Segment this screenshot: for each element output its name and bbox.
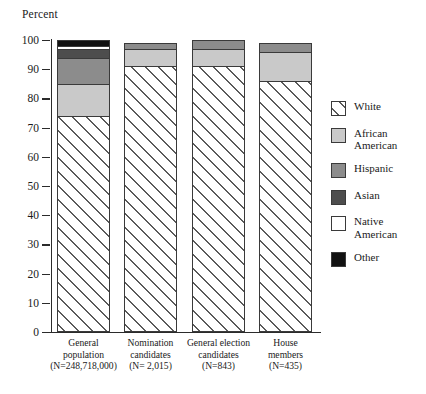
bar-segment-hispanic[interactable] (57, 58, 110, 84)
legend-item-asian[interactable]: Asian (331, 189, 426, 205)
bar-segment-africanamerican[interactable] (124, 49, 177, 67)
y-axis-tick-label: 80 (28, 92, 40, 104)
y-axis-tick (42, 128, 50, 129)
legend-swatch-other-icon (331, 252, 346, 267)
y-axis-tick (42, 332, 50, 333)
y-axis-tick (42, 274, 50, 275)
bar-segment-africanamerican[interactable] (57, 84, 110, 116)
bar-house-members[interactable] (259, 43, 312, 332)
x-axis-line (42, 332, 321, 333)
bar-general-population[interactable] (57, 40, 110, 332)
legend-label: African American (354, 127, 397, 152)
y-axis-tick-label: 70 (28, 122, 40, 134)
x-axis-label: Housemembers(N=435) (226, 337, 346, 372)
bar-segment-nativeamerican[interactable] (57, 46, 110, 49)
y-axis-tick-label: 90 (28, 63, 40, 75)
y-axis-tick-label: 40 (28, 209, 40, 221)
bar-segment-hispanic[interactable] (192, 40, 245, 49)
y-axis-tick (42, 215, 50, 216)
legend-swatch-nativeamerican-icon (331, 216, 346, 231)
legend-swatch-hispanic-icon (331, 163, 346, 178)
legend-swatch-white-icon (331, 101, 346, 116)
bar-segment-hispanic[interactable] (124, 43, 177, 49)
y-axis-tick (42, 40, 50, 41)
legend-label: Asian (354, 189, 380, 202)
y-axis-tick-label: 60 (28, 151, 40, 163)
y-axis-tick (42, 186, 50, 187)
bar-nomination-candidates[interactable] (124, 43, 177, 332)
y-axis-tick (42, 98, 50, 99)
chart-legend: WhiteAfrican AmericanHispanicAsianNative… (331, 100, 426, 277)
bar-segment-white[interactable] (192, 66, 245, 332)
bar-segment-other[interactable] (57, 40, 110, 46)
y-axis-tick-label: 100 (22, 34, 39, 46)
bar-segment-africanamerican[interactable] (192, 49, 245, 67)
y-axis-tick-label: 50 (28, 180, 40, 192)
x-axis-label-line: (N=435) (226, 360, 346, 372)
legend-label: Native American (354, 215, 397, 240)
bar-segment-hispanic[interactable] (259, 43, 312, 52)
y-axis-title: Percent (22, 8, 58, 20)
bar-segment-asian[interactable] (57, 49, 110, 58)
legend-item-white[interactable]: White (331, 100, 426, 116)
plot-area: 0102030405060708090100 (51, 40, 320, 332)
stacked-bar-chart: Percent 0102030405060708090100 WhiteAfri… (0, 0, 426, 394)
bar-general-election-candidates[interactable] (192, 40, 245, 332)
x-axis-label-line: House (226, 337, 346, 349)
legend-item-other[interactable]: Other (331, 251, 426, 267)
bar-segment-white[interactable] (57, 116, 110, 332)
y-axis-tick (42, 244, 50, 245)
bar-segment-white[interactable] (259, 81, 312, 332)
legend-swatch-asian-icon (331, 190, 346, 205)
legend-label: White (354, 100, 381, 113)
y-axis-tick (42, 69, 50, 70)
legend-label: Other (354, 251, 379, 264)
x-axis-label-line: members (226, 349, 346, 361)
bar-segment-white[interactable] (124, 66, 177, 332)
legend-item-hispanic[interactable]: Hispanic (331, 162, 426, 178)
y-axis-tick-label: 30 (28, 238, 40, 250)
y-axis-tick (42, 157, 50, 158)
y-axis-tick (42, 303, 50, 304)
legend-item-nativeamerican[interactable]: Native American (331, 215, 426, 240)
legend-label: Hispanic (354, 162, 393, 175)
y-axis-tick-label: 20 (28, 268, 40, 280)
y-axis-tick-label: 10 (28, 297, 40, 309)
bar-segment-africanamerican[interactable] (259, 52, 312, 81)
legend-item-africanamerican[interactable]: African American (331, 127, 426, 152)
legend-swatch-africanamerican-icon (331, 128, 346, 143)
